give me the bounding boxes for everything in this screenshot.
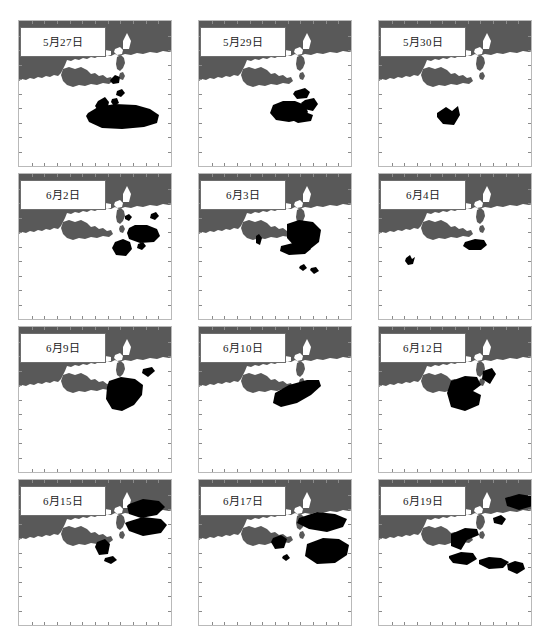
landmass-feature [296,55,305,71]
bloom-patch [437,106,460,125]
date-label-box: 5月27日 [20,27,106,57]
landmass-feature [116,361,125,377]
landmass-feature [479,72,485,80]
bloom-patch [125,214,132,221]
map-panel[interactable]: 5月30日 [378,20,532,167]
date-label-box: 6月15日 [20,486,106,516]
map-panel[interactable]: 6月12日 [378,326,532,473]
bloom-patch [293,88,310,99]
bloom-patch [104,556,117,564]
landmass-feature [116,208,125,224]
landmass-feature [479,531,485,539]
landmass-feature [299,72,305,80]
bloom-patch [451,528,479,550]
figure-caption [18,612,542,630]
bloom-patch [282,554,290,561]
panel-grid: 5月27日5月29日5月30日6月2日6月3日6月4日6月9日6月10日6月12… [18,20,542,606]
bloom-patch [112,239,132,256]
date-label-box: 6月19日 [380,486,466,516]
bloom-patch [127,225,160,243]
landmass-feature [299,531,305,539]
bloom-patch [305,538,349,564]
date-label: 6月10日 [223,343,263,354]
landmass-feature [61,220,113,240]
bloom-patch [86,104,159,129]
bloom-patch [280,243,311,255]
landmass-feature [116,55,125,71]
bloom-patch [297,512,347,532]
bloom-patch [150,212,159,220]
landmass-feature [119,225,125,233]
bloom-patch [125,517,167,536]
landmass-feature [421,67,473,87]
date-label-box: 6月10日 [200,333,286,363]
date-label-box: 6月9日 [20,333,106,363]
landmass-feature [476,514,485,530]
landmass-feature [296,361,305,377]
landmass-feature [241,220,293,240]
bloom-patch [290,112,313,123]
date-label-box: 6月17日 [200,486,286,516]
bloom-patch [479,557,509,569]
date-label: 6月2日 [46,190,80,201]
date-label: 6月19日 [403,496,443,507]
date-label: 6月15日 [43,496,83,507]
landmass-feature [476,55,485,71]
landmass-feature [61,373,113,393]
date-label-box: 5月29日 [200,27,286,57]
bloom-patch [507,561,525,574]
landmass-feature [61,67,113,87]
map-panel[interactable]: 6月4日 [378,173,532,320]
date-label: 6月3日 [226,190,260,201]
bloom-patch [110,75,120,84]
bloom-patch [463,239,487,250]
bloom-patch [137,242,146,250]
landmass-feature [119,72,125,80]
date-label: 6月4日 [406,190,440,201]
map-panel[interactable]: 5月29日 [198,20,352,167]
landmass-feature [119,531,125,539]
date-label: 6月12日 [403,343,443,354]
date-label: 5月27日 [43,37,83,48]
bloom-patch [493,515,506,525]
bloom-patch [106,377,143,411]
bloom-patch [299,264,307,271]
bloom-patch [142,367,155,377]
bloom-patch [449,552,477,565]
date-label-box: 6月2日 [20,180,106,210]
map-panel[interactable]: 5月27日 [18,20,172,167]
date-label: 5月29日 [223,37,263,48]
bloom-patch [447,376,481,411]
bloom-patch [310,267,319,274]
landmass-feature [479,225,485,233]
date-label: 6月9日 [46,343,80,354]
map-panel[interactable]: 6月15日 [18,479,172,626]
map-panel[interactable]: 6月17日 [198,479,352,626]
landmass-feature [116,514,125,530]
date-label: 6月17日 [223,496,263,507]
date-label-box: 5月30日 [380,27,466,57]
bloom-patch [405,255,415,265]
date-label-box: 6月3日 [200,180,286,210]
landmass-feature [476,208,485,224]
map-panel[interactable]: 6月9日 [18,326,172,473]
map-panel[interactable]: 6月2日 [18,173,172,320]
date-label-box: 6月4日 [380,180,466,210]
map-panel[interactable]: 6月10日 [198,326,352,473]
date-label-box: 6月12日 [380,333,466,363]
bloom-patch [116,89,125,97]
landmass-feature [241,67,293,87]
map-panel[interactable]: 6月19日 [378,479,532,626]
map-panel[interactable]: 6月3日 [198,173,352,320]
landmass-feature [421,220,473,240]
date-label: 5月30日 [403,37,443,48]
